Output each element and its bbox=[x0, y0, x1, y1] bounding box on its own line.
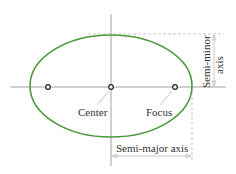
center-leader bbox=[97, 91, 109, 105]
focus-label: Focus bbox=[146, 106, 172, 118]
center-label: Center bbox=[78, 106, 108, 118]
right-focus-point bbox=[173, 85, 178, 90]
semi-major-label: Semi-major axis bbox=[116, 142, 188, 154]
ellipse-diagram: Center Focus Semi-major axis Semi-minor … bbox=[0, 0, 236, 174]
semi-minor-label: Semi-minor bbox=[200, 35, 212, 88]
semi-minor-label-axis: axis bbox=[213, 56, 225, 74]
left-focus-point bbox=[46, 85, 51, 90]
center-point bbox=[109, 85, 114, 90]
focus-leader bbox=[160, 91, 172, 105]
